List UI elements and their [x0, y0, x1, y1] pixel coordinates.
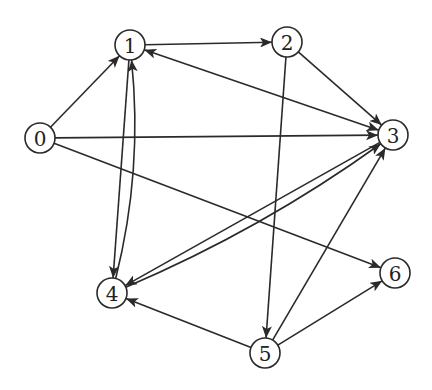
node-3: 3 — [378, 120, 408, 150]
node-4: 4 — [97, 278, 127, 308]
node-label: 6 — [389, 262, 402, 286]
node-6: 6 — [380, 258, 410, 288]
edge-5-to-3 — [273, 148, 386, 340]
edge-0-to-1 — [50, 56, 119, 127]
node-5: 5 — [250, 338, 280, 368]
node-1: 1 — [115, 30, 145, 60]
edge-0-to-3 — [55, 135, 378, 138]
edge-3-to-4 — [125, 142, 380, 285]
node-label: 4 — [106, 282, 119, 306]
node-label: 3 — [387, 124, 400, 148]
nodes-group: 0123456 — [25, 27, 410, 368]
edge-0-to-6 — [54, 143, 381, 267]
edge-1-to-4 — [113, 60, 129, 278]
node-label: 0 — [34, 127, 47, 151]
node-label: 2 — [281, 31, 294, 55]
node-label: 5 — [259, 342, 272, 366]
node-2: 2 — [272, 27, 302, 57]
node-0: 0 — [25, 123, 55, 153]
edge-5-to-4 — [126, 298, 251, 347]
edge-5-to-6 — [278, 281, 382, 345]
edge-1-to-3 — [144, 50, 379, 130]
edge-4-to-3 — [126, 144, 381, 287]
edge-4-to-1 — [116, 60, 135, 279]
node-label: 1 — [124, 34, 137, 58]
edges-layer: 0123456 — [0, 0, 432, 390]
graph-canvas: 0123456 — [0, 0, 432, 390]
edge-2-to-3 — [298, 52, 381, 125]
edge-1-to-2 — [145, 42, 272, 44]
